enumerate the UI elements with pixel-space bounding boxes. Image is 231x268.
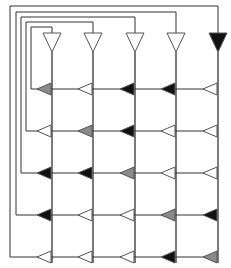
grid-triangle-icon-r3-c2 xyxy=(78,167,92,179)
top-triangles xyxy=(43,33,227,52)
top-triangle-icon-5 xyxy=(209,33,227,52)
feedback-line-3 xyxy=(21,17,135,173)
grid-triangle-icon-r2-c3 xyxy=(120,125,134,137)
grid-triangle-icon-r4-c4 xyxy=(161,209,175,221)
top-triangle-icon-4 xyxy=(167,33,185,52)
grid-triangle-icon-r1-c4 xyxy=(161,83,175,95)
grid-triangle-icon-r1-c2 xyxy=(78,83,92,95)
feedback-line-2 xyxy=(26,22,93,131)
grid-triangle-icon-r2-c1 xyxy=(37,125,51,137)
grid-triangle-icon-r3-c1 xyxy=(37,167,51,179)
connection-lines xyxy=(10,6,218,263)
grid-triangle-icon-r4-c5 xyxy=(203,209,217,221)
grid-triangle-icon-r2-c2 xyxy=(78,125,92,137)
grid-triangle-icon-r4-c3 xyxy=(120,209,134,221)
grid-triangle-icon-r1-c5 xyxy=(203,83,217,95)
grid-triangle-icon-r1-c1 xyxy=(37,83,51,95)
triangle-grid-diagram xyxy=(0,0,231,268)
top-triangle-icon-2 xyxy=(84,33,102,52)
grid-triangle-icon-r2-c5 xyxy=(203,125,217,137)
grid-triangle-icon-r5-c4 xyxy=(161,251,175,263)
grid-triangle-icon-r3-c4 xyxy=(161,167,175,179)
grid-triangle-icon-r5-c2 xyxy=(78,251,92,263)
grid-triangle-icon-r3-c3 xyxy=(120,167,134,179)
grid-triangle-icon-r3-c5 xyxy=(203,167,217,179)
grid-triangle-icon-r4-c1 xyxy=(37,209,51,221)
grid-triangle-icon-r4-c2 xyxy=(78,209,92,221)
top-triangle-icon-1 xyxy=(43,33,61,52)
grid-triangle-icon-r2-c4 xyxy=(161,125,175,137)
grid-triangle-icon-r5-c5 xyxy=(203,251,217,263)
grid-triangle-icon-r5-c3 xyxy=(120,251,134,263)
grid-triangle-icon-r5-c1 xyxy=(37,251,51,263)
grid-triangle-icon-r1-c3 xyxy=(120,83,134,95)
top-triangle-icon-3 xyxy=(126,33,144,52)
